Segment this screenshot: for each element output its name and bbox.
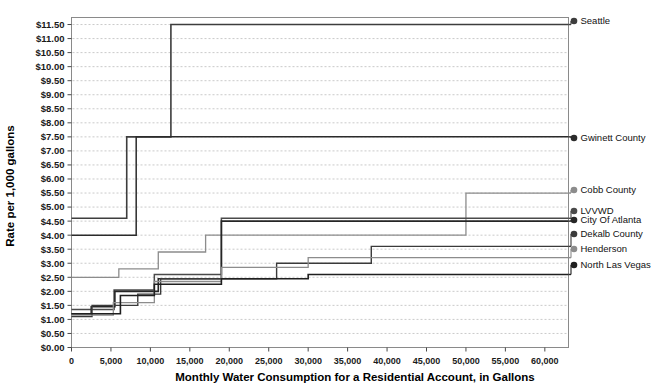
y-tick-label: $6.50 (41, 159, 65, 170)
x-tick-label: 60,000 (531, 356, 559, 366)
y-tick-label: $3.00 (41, 258, 65, 269)
legend-label-north-las-vegas: North Las Vegas (581, 259, 651, 270)
x-tick-label: 50,000 (452, 356, 480, 366)
x-tick-label: 10,000 (137, 356, 165, 366)
series-lines-group (72, 25, 569, 317)
y-tick-label: $11.00 (36, 33, 65, 44)
y-tick-label: $5.00 (41, 201, 65, 212)
x-axis-ticks: 05,00010,00015,00020,00025,00030,00035,0… (69, 348, 559, 366)
legend-marker (571, 231, 578, 238)
legend-marker (571, 262, 578, 269)
y-tick-label: $8.00 (41, 117, 65, 128)
legend-marker (571, 246, 578, 253)
y-tick-label: $9.00 (41, 89, 65, 100)
x-tick-label: 0 (69, 356, 74, 366)
y-tick-label: $9.50 (41, 75, 65, 86)
chart-container: $0.00$0.50$1.00$1.50$2.00$2.50$3.00$3.50… (0, 0, 655, 385)
y-tick-label: $11.50 (36, 19, 65, 30)
legend-label-cobb-county: Cobb County (581, 184, 637, 195)
y-tick-label: $1.00 (41, 314, 65, 325)
y-tick-label: $4.50 (41, 216, 65, 227)
legend-marker (571, 135, 578, 142)
x-tick-label: 55,000 (492, 356, 520, 366)
series-line-seattle (72, 25, 569, 219)
x-tick-label: 35,000 (334, 356, 362, 366)
series-line-dekalb-county (72, 246, 569, 316)
y-tick-label: $10.50 (35, 47, 64, 58)
y-tick-label: $1.50 (41, 300, 65, 311)
legend-label-gwinett-county: Gwinett County (581, 132, 646, 143)
legend-marker (571, 18, 578, 25)
series-line-henderson (72, 258, 569, 316)
y-axis-title: Rate per 1,000 gallons (4, 125, 16, 246)
legend-marker (571, 217, 578, 224)
legend-label-city-of-atlanta: City Of Atlanta (581, 214, 642, 225)
x-tick-label: 25,000 (255, 356, 283, 366)
x-tick-label: 5,000 (100, 356, 123, 366)
y-tick-label: $7.00 (41, 145, 65, 156)
y-tick-label: $6.00 (41, 173, 65, 184)
x-tick-label: 20,000 (216, 356, 244, 366)
y-tick-label: $2.00 (41, 286, 65, 297)
legend-label-henderson: Henderson (581, 243, 627, 254)
y-tick-label: $10.00 (35, 61, 64, 72)
y-tick-label: $0.00 (41, 342, 65, 353)
x-tick-label: 30,000 (294, 356, 322, 366)
legend-label-dekalb-county: Dekalb County (581, 228, 644, 239)
legend-label-seattle: Seattle (581, 15, 611, 26)
x-axis-title: Monthly Water Consumption for a Resident… (175, 371, 535, 383)
y-tick-label: $8.50 (41, 103, 65, 114)
y-tick-label: $7.50 (41, 131, 65, 142)
y-tick-label: $3.50 (41, 244, 65, 255)
x-tick-label: 40,000 (373, 356, 401, 366)
x-tick-label: 15,000 (176, 356, 204, 366)
x-tick-label: 45,000 (413, 356, 441, 366)
legend-marker (571, 187, 578, 194)
y-tick-label: $4.00 (41, 230, 65, 241)
gridlines-group (73, 25, 568, 334)
y-axis-ticks: $0.00$0.50$1.00$1.50$2.00$2.50$3.00$3.50… (35, 19, 71, 353)
legend-marker (571, 208, 578, 215)
y-tick-label: $2.50 (41, 272, 65, 283)
y-tick-label: $0.50 (41, 328, 65, 339)
legend-group: SeattleGwinett CountyCobb CountyLVVWDCit… (569, 15, 651, 274)
water-rate-step-chart: $0.00$0.50$1.00$1.50$2.00$2.50$3.00$3.50… (0, 0, 655, 385)
y-tick-label: $5.50 (41, 187, 65, 198)
